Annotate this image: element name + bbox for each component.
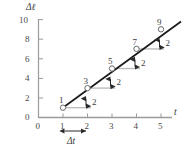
y-tick-label-10: 10 — [19, 16, 28, 25]
x-tick-label-5: 5 — [158, 122, 163, 131]
data-line — [63, 22, 182, 109]
data-point-label-2: 3 — [84, 77, 89, 86]
y-tick-label-6: 6 — [25, 55, 30, 64]
data-point-label-4: 7 — [133, 38, 138, 47]
x-tick-label-0: 0 — [36, 122, 41, 131]
delta-t-label: Δt — [67, 137, 75, 147]
data-point-label-3: 5 — [108, 57, 113, 66]
data-point-marker — [60, 105, 65, 110]
rise-label-4: 2 — [166, 39, 171, 48]
y-axis-title: Δℓ — [26, 3, 36, 13]
x-tick-label-2: 2 — [85, 122, 90, 131]
rise-label-1: 2 — [92, 98, 97, 107]
data-point-marker — [134, 46, 139, 51]
step-guide-lines — [63, 49, 164, 108]
x-axis-title: t — [174, 108, 177, 118]
chart-figure: Δℓ t 10 8 6 4 2 0 0 1 2 3 4 5 1 3 5 7 9 … — [0, 0, 187, 160]
y-tick-label-2: 2 — [25, 94, 30, 103]
x-tick-label-1: 1 — [60, 122, 65, 131]
rise-label-2: 2 — [117, 78, 122, 87]
data-point-marker — [109, 66, 114, 71]
x-tick-label-4: 4 — [134, 122, 139, 131]
y-axis-ticks — [39, 20, 44, 118]
x-tick-label-3: 3 — [109, 122, 114, 131]
y-tick-label-8: 8 — [25, 35, 30, 44]
y-tick-label-0: 0 — [25, 113, 30, 122]
data-point-label-5: 9 — [157, 18, 162, 27]
data-point-marker — [85, 85, 90, 90]
data-point-marker — [158, 27, 163, 32]
data-point-label-1: 1 — [59, 96, 64, 105]
rise-arrows — [86, 40, 160, 106]
y-tick-label-4: 4 — [25, 74, 30, 83]
rise-label-3: 2 — [141, 59, 146, 68]
